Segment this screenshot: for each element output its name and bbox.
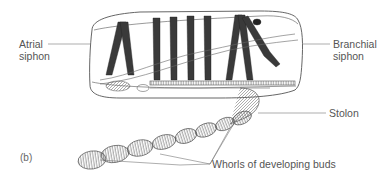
branchial-siphon-label: Branchial siphon — [333, 38, 377, 62]
salp-illustration — [0, 0, 390, 180]
stolon-label: Stolon — [329, 107, 359, 119]
endostyle — [150, 81, 295, 85]
whorls-label: Whorls of developing buds — [212, 158, 336, 170]
whorls-leader-4 — [160, 154, 210, 164]
panel-label: (b) — [20, 152, 32, 163]
atrial-siphon-label-line2: siphon — [19, 50, 50, 62]
atrial-siphon-label-line1: Atrial — [19, 38, 50, 50]
salp-diagram: Atrial siphon Branchial siphon Stolon Wh… — [0, 0, 390, 180]
branchial-siphon-label-line1: Branchial — [333, 38, 377, 50]
branchial-siphon-label-line2: siphon — [333, 50, 377, 62]
atrial-siphon-label: Atrial siphon — [19, 38, 50, 62]
